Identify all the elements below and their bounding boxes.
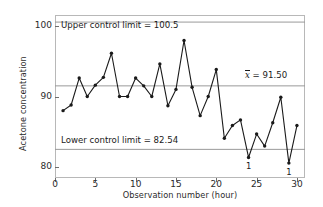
- data-point: [174, 88, 177, 91]
- y-tick-label: 80: [26, 162, 52, 171]
- y-tick-label: 90: [26, 92, 52, 101]
- x-tick-label: 30: [285, 180, 309, 189]
- data-point: [150, 95, 153, 98]
- control-limit-lines: [55, 22, 305, 149]
- x-tick-label: 20: [204, 180, 228, 189]
- lower-control-limit-label: Lower control limit = 82.54: [61, 136, 178, 145]
- data-point: [166, 104, 169, 107]
- x-tick-label: 0: [43, 180, 67, 189]
- data-point: [207, 95, 210, 98]
- data-point: [190, 86, 193, 89]
- plot-svg: [55, 15, 305, 178]
- data-point: [271, 121, 274, 124]
- data-point: [279, 96, 282, 99]
- data-point: [110, 52, 113, 55]
- x-tick-label: 10: [124, 180, 148, 189]
- data-point: [255, 132, 258, 135]
- center-line-label: x = 91.50: [245, 71, 287, 80]
- data-point: [142, 84, 145, 87]
- data-point: [295, 124, 298, 127]
- x-tick-label: 25: [245, 180, 269, 189]
- data-point: [182, 39, 185, 42]
- data-point: [247, 156, 250, 159]
- y-axis-title: Acetone concentration: [14, 0, 32, 207]
- data-point: [77, 76, 80, 79]
- x-tick-label: 5: [83, 180, 107, 189]
- x-axis-title: Observation number (hour): [55, 190, 305, 200]
- upper-control-limit-label: Upper control limit = 100.5: [61, 21, 178, 30]
- y-tick-label: 100: [26, 21, 52, 30]
- data-point: [126, 95, 129, 98]
- data-point: [263, 144, 266, 147]
- data-point: [239, 118, 242, 121]
- data-point: [198, 114, 201, 117]
- data-point: [61, 109, 64, 112]
- data-point: [231, 124, 234, 127]
- data-point: [69, 103, 72, 106]
- data-point: [215, 68, 218, 71]
- data-series-markers: [61, 39, 298, 165]
- data-point: [134, 76, 137, 79]
- data-point: [94, 83, 97, 86]
- violation-marker-label: 1: [282, 168, 296, 176]
- control-chart: Acetone concentration Observation number…: [0, 0, 323, 207]
- data-point: [86, 95, 89, 98]
- center-line-value: = 91.50: [250, 70, 287, 80]
- data-point: [287, 161, 290, 164]
- x-tick-label: 15: [164, 180, 188, 189]
- data-point: [158, 62, 161, 65]
- data-point: [118, 95, 121, 98]
- data-point: [223, 137, 226, 140]
- x-bar-symbol: x: [245, 71, 250, 80]
- violation-marker-label: 1: [242, 162, 256, 170]
- data-point: [102, 76, 105, 79]
